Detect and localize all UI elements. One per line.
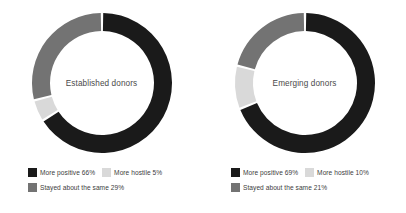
legend-item-stayed-about-the-same: Stayed about the same 29% bbox=[28, 183, 124, 192]
legend-established: More positive 66% More hostile 5% Stayed… bbox=[0, 166, 203, 206]
legend-label-stayed-about-the-same: Stayed about the same 21% bbox=[243, 184, 327, 191]
legend-row: More positive 69% More hostile 10% bbox=[231, 166, 406, 179]
legend-item-more-positive: More positive 66% bbox=[28, 168, 95, 177]
legend-swatch-more-positive-icon bbox=[28, 168, 37, 177]
legend-swatch-stayed-about-the-same-icon bbox=[28, 183, 37, 192]
donut-established: Established donors bbox=[0, 4, 203, 162]
legend-item-more-hostile: More hostile 5% bbox=[102, 168, 162, 177]
legend-item-stayed-about-the-same: Stayed about the same 21% bbox=[231, 183, 327, 192]
legend-swatch-stayed-about-the-same-icon bbox=[231, 183, 240, 192]
chart-panel-emerging: Emerging donors bbox=[203, 4, 406, 162]
legend-swatch-more-hostile-icon bbox=[102, 168, 111, 177]
legend-label-more-positive: More positive 66% bbox=[40, 169, 95, 176]
donut-slice bbox=[237, 13, 304, 69]
legend-row: Stayed about the same 29% bbox=[28, 181, 203, 194]
donut-center-label-emerging: Emerging donors bbox=[273, 79, 337, 88]
legend-row: Stayed about the same 21% bbox=[231, 181, 406, 194]
legend-item-more-hostile: More hostile 10% bbox=[305, 168, 369, 177]
legend-swatch-more-positive-icon bbox=[231, 168, 240, 177]
chart-panel-established: Established donors bbox=[0, 4, 203, 162]
legend-row: More positive 66% More hostile 5% bbox=[28, 166, 203, 179]
donut-slice bbox=[235, 67, 256, 108]
legend-label-stayed-about-the-same: Stayed about the same 29% bbox=[40, 184, 124, 191]
donut-chart-figure: Established donors Emerging donors More … bbox=[0, 0, 406, 213]
chart-panels: Established donors Emerging donors bbox=[0, 4, 406, 162]
legend-label-more-hostile: More hostile 5% bbox=[114, 169, 162, 176]
legend-swatch-more-hostile-icon bbox=[305, 168, 314, 177]
legend-item-more-positive: More positive 69% bbox=[231, 168, 298, 177]
legend-label-more-positive: More positive 69% bbox=[243, 169, 298, 176]
chart-legends: More positive 66% More hostile 5% Stayed… bbox=[0, 166, 406, 206]
donut-center-label-established: Established donors bbox=[66, 79, 137, 88]
legend-label-more-hostile: More hostile 10% bbox=[317, 169, 369, 176]
legend-emerging: More positive 69% More hostile 10% Staye… bbox=[203, 166, 406, 206]
donut-emerging: Emerging donors bbox=[203, 4, 406, 162]
